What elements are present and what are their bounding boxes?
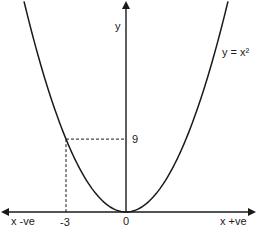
x-negative-label: x -ve [11, 215, 35, 227]
parabola-chart: y y = x² 9 -3 0 x -ve x +ve [0, 0, 257, 228]
origin-label: 0 [123, 215, 129, 227]
y-tick-label: 9 [132, 133, 138, 145]
curve-label: y = x² [222, 46, 250, 58]
y-axis-label: y [115, 20, 121, 32]
x-positive-label: x +ve [220, 215, 247, 227]
x-tick-label: -3 [60, 216, 70, 228]
